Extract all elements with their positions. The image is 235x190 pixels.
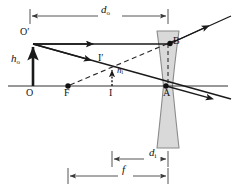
label-object-distance: do (101, 4, 110, 16)
label-point-b: B (173, 36, 180, 46)
label-point-o-prime: O′ (20, 27, 29, 37)
point-B-dot (167, 41, 172, 46)
center-ray-arrow-1 (33, 44, 88, 59)
d-o-dimension (30, 9, 168, 24)
diagram-canvas (0, 0, 235, 190)
label-object-height: ho (11, 53, 20, 65)
ray-diagram-figure: do di f ho hi O′ I′ O F I A B (0, 0, 235, 190)
label-point-a: A (163, 88, 170, 98)
d-i-dimension (112, 151, 168, 167)
label-point-o: O (26, 88, 33, 98)
f-dimension (68, 168, 168, 184)
label-point-f: F (64, 88, 70, 98)
label-point-i-prime: I′ (98, 53, 104, 63)
label-point-i: I (109, 88, 112, 98)
label-focal-length: f (122, 164, 125, 175)
label-image-distance: di (149, 147, 156, 159)
label-image-height: hi (117, 66, 123, 76)
